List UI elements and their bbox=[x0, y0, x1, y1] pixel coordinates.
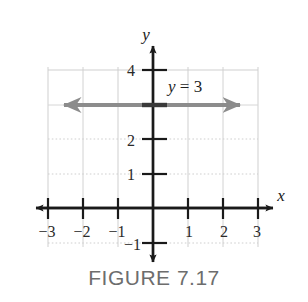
x-tick-label: 3 bbox=[253, 223, 261, 240]
y-tick-label: 4 bbox=[127, 62, 135, 79]
y-axis-label: y bbox=[140, 25, 150, 44]
y-tick-label-negative: −1 bbox=[124, 236, 141, 253]
figure-caption: FIGURE 7.17 bbox=[0, 266, 308, 290]
y-tick-label: 2 bbox=[127, 132, 135, 149]
x-tick-label: −1 bbox=[108, 223, 125, 240]
x-tick-label: −2 bbox=[73, 223, 90, 240]
x-tick-label: 1 bbox=[185, 223, 193, 240]
equation-annotation: y = 3 bbox=[166, 77, 202, 96]
figure-container: x y y = 3 −3 −2 −1 1 2 3 4 2 1 −1 FIGURE… bbox=[0, 0, 308, 302]
x-tick-label: −3 bbox=[38, 223, 55, 240]
equation-variable: y bbox=[166, 77, 176, 96]
x-tick-label: 2 bbox=[220, 223, 228, 240]
x-axis-label: x bbox=[276, 186, 285, 205]
equation-rest: = 3 bbox=[176, 77, 203, 96]
y-tick-label: 1 bbox=[127, 166, 135, 183]
coordinate-plane-graph: x y y = 3 −3 −2 −1 1 2 3 4 2 1 −1 bbox=[0, 0, 308, 272]
